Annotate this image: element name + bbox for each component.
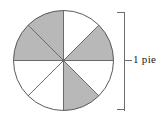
- pie-fraction-figure: 1 pie: [0, 0, 167, 118]
- bracket-strokes: [117, 12, 131, 110]
- bracket-label: 1 pie: [133, 52, 156, 66]
